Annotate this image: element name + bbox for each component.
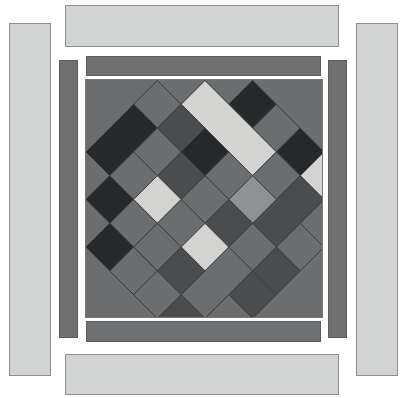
- artwork-canvas: [0, 0, 407, 398]
- bottom-inner-bar: [86, 321, 321, 342]
- left-inner-bar: [59, 60, 78, 338]
- lattice-svg: [86, 80, 323, 318]
- left-outer-bar: [9, 23, 51, 376]
- right-outer-bar: [356, 23, 398, 376]
- pattern-field: [85, 79, 323, 318]
- top-inner-bar: [86, 56, 321, 76]
- top-outer-bar: [65, 5, 339, 47]
- bottom-outer-bar: [65, 354, 339, 395]
- right-inner-bar: [328, 60, 347, 338]
